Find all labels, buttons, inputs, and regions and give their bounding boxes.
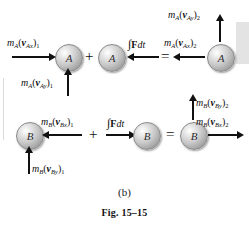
- sphere-a-final-label: A: [218, 53, 225, 64]
- momentum-arrow-b-initial-y: [28, 152, 30, 174]
- momentum-arrow-a-initial-y: [67, 74, 69, 96]
- sphere-a-impulse-label: A: [109, 53, 116, 64]
- momentum-label-b-final-y: mB(vBy)2: [196, 98, 228, 109]
- momentum-label-a-final-x: mA(vAx)2: [164, 38, 196, 49]
- momentum-arrow-a-final-x: [179, 56, 205, 58]
- momentum-label-a-final-y: mA(vAy)2: [168, 10, 200, 21]
- momentum-label-b-initial-x: mB(vBx)1: [41, 117, 73, 128]
- momentum-arrow-b-initial-x: [48, 134, 82, 136]
- operator-plus-row1: +: [85, 49, 93, 64]
- momentum-label-a-initial-x: mA(vAx)1: [7, 38, 39, 49]
- momentum-label-a-initial-y: mA(vAy)1: [21, 78, 53, 89]
- sphere-b-initial-label: B: [27, 131, 34, 142]
- operator-plus-row2: +: [89, 127, 97, 142]
- impulse-label-row2: ∫Fdt: [107, 117, 124, 129]
- operator-equals-row2: =: [166, 127, 174, 142]
- figure-15-15b: A mA(vAx)1 mA(vAy)1 + A ∫Fdt = A mA(vAx)…: [0, 0, 249, 225]
- figure-number-caption: Fig. 15–15: [0, 207, 249, 218]
- sphere-a-impulse: A: [98, 44, 126, 72]
- sphere-b-impulse: B: [133, 122, 161, 150]
- sphere-b-impulse-label: B: [144, 131, 151, 142]
- momentum-label-b-final-x: mB(vBx)2: [196, 117, 228, 128]
- sphere-a-initial-label: A: [66, 53, 73, 64]
- momentum-arrow-a-initial-x: [12, 56, 50, 58]
- page-edge-line-left: [3, 78, 4, 140]
- momentum-arrow-a-final-y: [219, 20, 221, 42]
- figure-part-caption: (b): [0, 186, 249, 198]
- impulse-arrow-row2: [106, 134, 130, 136]
- impulse-arrow-row1: [133, 56, 159, 58]
- impulse-label-row1: ∫Fdt: [128, 38, 145, 50]
- momentum-arrow-b-final-y: [192, 100, 194, 120]
- sphere-a-final: A: [207, 44, 235, 72]
- momentum-label-b-initial-y: mB(vBy)1: [32, 164, 64, 175]
- momentum-arrow-b-final-x: [208, 134, 238, 136]
- page-edge-block-right: [236, 22, 249, 64]
- sphere-b-final-label: B: [191, 131, 198, 142]
- operator-equals-row1: =: [161, 49, 169, 64]
